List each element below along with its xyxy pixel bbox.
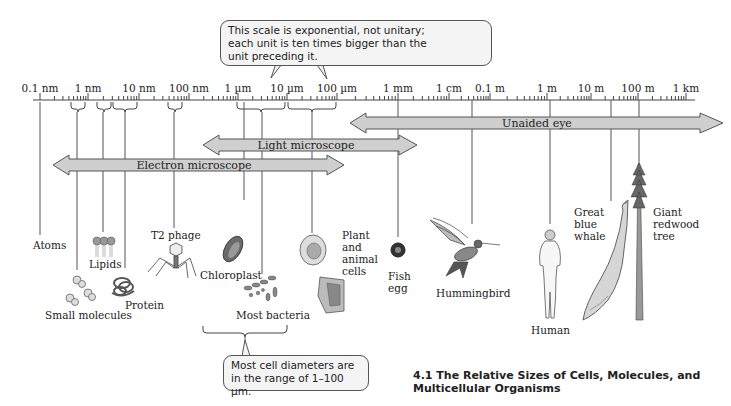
cell-callout-pointer (242, 340, 250, 356)
scale-tick-label: 100 m (621, 82, 654, 94)
t2-phage-label: T2 phage (151, 229, 201, 241)
small-molecules-label: Small molecules (45, 309, 132, 321)
range-braces (71, 102, 336, 337)
most-bacteria-label: Most bacteria (236, 309, 310, 321)
unaided-eye-label: Unaided eye (502, 117, 572, 130)
log-scale-axis (33, 93, 695, 100)
cell-range-callout: Most cell diameters are in the range of … (223, 355, 369, 391)
scale-tick-label: 10 µm (270, 82, 303, 94)
scale-tick-label: 1 µm (225, 82, 252, 94)
scale-tick-label: 1 m (537, 82, 557, 94)
scale-tick-label: 10 nm (122, 82, 155, 94)
protein-icon (112, 278, 134, 296)
hummingbird-icon (430, 218, 500, 278)
scale-tick-label: 1 nm (75, 82, 102, 94)
human-icon (540, 230, 561, 318)
scale-note-line3: unit preceding it. (228, 50, 484, 63)
protein-label: Protein (125, 299, 164, 311)
scale-tick-label: 10 m (578, 82, 605, 94)
cell-range-line2: in the range of 1–100 µm. (231, 372, 361, 398)
caption-line1: 4.1 The Relative Sizes of Cells, Molecul… (413, 369, 700, 382)
atoms-label: Atoms (33, 239, 66, 251)
scale-tick-label: 1 mm (383, 82, 413, 94)
small-molecules-icon (66, 276, 96, 306)
scale-tick-label: 100 nm (169, 82, 209, 94)
scale-note-line1: This scale is exponential, not unitary; (228, 24, 484, 37)
scale-tick-label: 1 cm (436, 82, 462, 94)
animal-cell-icon (300, 235, 326, 265)
scale-tick-label: 1 km (673, 82, 699, 94)
chloroplast-label: Chloroplast (200, 269, 262, 281)
chloroplast-icon (219, 233, 247, 265)
scale-tick-label: 100 µm (317, 82, 357, 94)
fish-egg-icon (391, 243, 405, 257)
caption-line2: Multicellular Organisms (413, 382, 700, 395)
redwood-tree-icon (631, 163, 647, 320)
plant-cell-icon (318, 277, 344, 313)
lipids-icon (93, 237, 115, 257)
redwood-tree-label: Giant redwood tree (653, 206, 699, 242)
electron-microscope-label: Electron microscope (136, 159, 251, 172)
plant-animal-cells-label: Plant and animal cells (342, 229, 378, 277)
lipids-label: Lipids (89, 258, 122, 270)
size-scale-figure: 0.1 nm1 nm10 nm100 nm1 µm10 µm100 µm1 mm… (0, 0, 731, 406)
scale-tick-label: 0.1 nm (22, 82, 59, 94)
figure-caption: 4.1 The Relative Sizes of Cells, Molecul… (413, 369, 700, 395)
light-microscope-label: Light microscope (258, 139, 355, 152)
blue-whale-label: Great blue whale (574, 206, 606, 242)
scale-note-line2: each unit is ten times bigger than the (228, 37, 484, 50)
hummingbird-label: Hummingbird (436, 287, 511, 299)
t2-phage-icon (148, 243, 196, 278)
human-label: Human (531, 324, 570, 336)
scale-tick-label: 0.1 m (475, 82, 505, 94)
fish-egg-label: Fish egg (388, 270, 411, 294)
scale-note-callout: This scale is exponential, not unitary; … (220, 20, 492, 66)
cell-range-line1: Most cell diameters are (231, 359, 361, 372)
